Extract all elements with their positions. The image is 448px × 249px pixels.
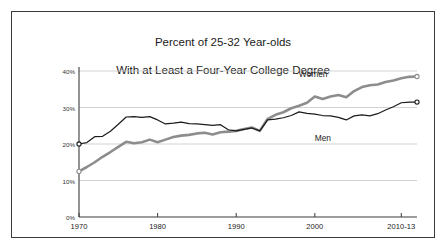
plot-area: 0% 10% 20% 30% 40% 1970 1980 1990 2000 2…	[12, 12, 436, 239]
x-axis-tick-2000: 2000	[292, 222, 338, 231]
x-axis-tick-1990: 1990	[213, 222, 259, 231]
chart-canvas	[12, 12, 436, 239]
chart-frame: Percent of 25-32 Year-olds With at Least…	[11, 11, 435, 238]
y-axis-tick-30: 30%	[53, 104, 75, 111]
series-label-men: Men	[315, 133, 331, 143]
series-label-women: Women	[299, 69, 328, 79]
y-axis-tick-10: 10%	[53, 177, 75, 184]
x-axis-tick-1970: 1970	[56, 222, 102, 231]
y-axis-tick-20: 20%	[53, 141, 75, 148]
x-axis-tick-1980: 1980	[135, 222, 181, 231]
y-axis-tick-40: 40%	[53, 68, 75, 75]
x-axis-tick-2010-13: 2010-13	[378, 222, 424, 231]
y-axis-tick-0: 0%	[53, 214, 75, 221]
